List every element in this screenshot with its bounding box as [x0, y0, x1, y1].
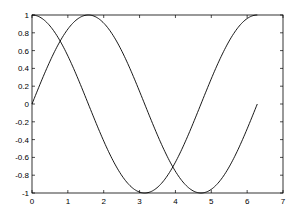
x-tick-label: 3	[137, 197, 142, 206]
line-chart: 01234567 -1-0.8-0.6-0.4-0.200.20.40.60.8…	[0, 0, 298, 212]
series-lines	[32, 15, 257, 193]
y-tick-label: -0.8	[15, 171, 29, 180]
y-tick-label: 1	[25, 11, 30, 20]
y-tick-label: 0.6	[18, 47, 30, 56]
y-tick-label: -0.6	[15, 153, 29, 162]
x-tick-label: 0	[30, 197, 35, 206]
y-tick-label: -0.2	[15, 118, 29, 127]
y-tick-label: 0	[25, 100, 30, 109]
series-sin	[32, 15, 257, 193]
axes-box	[32, 15, 283, 193]
x-tick-label: 6	[245, 197, 250, 206]
x-tick-label: 7	[281, 197, 286, 206]
plot-area	[32, 15, 283, 193]
x-tick-label: 1	[66, 197, 71, 206]
y-tick-label: -0.4	[15, 136, 29, 145]
y-tick-label: 0.4	[18, 64, 30, 73]
x-tick-label: 4	[173, 197, 178, 206]
x-tick-label: 5	[209, 197, 214, 206]
x-tick-label: 2	[101, 197, 106, 206]
y-tick-label: -1	[22, 189, 30, 198]
y-tick-label: 0.2	[18, 82, 30, 91]
x-axis: 01234567	[30, 15, 286, 206]
y-axis: -1-0.8-0.6-0.4-0.200.20.40.60.81	[15, 11, 283, 198]
y-tick-label: 0.8	[18, 29, 30, 38]
